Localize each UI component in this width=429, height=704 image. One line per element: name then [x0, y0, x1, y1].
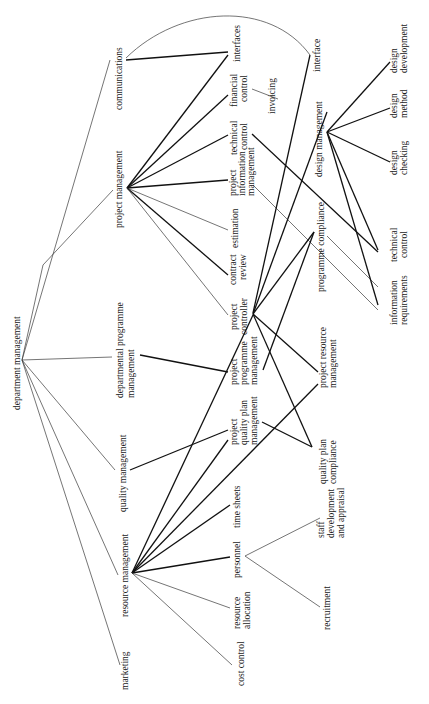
edge-pm-interfaces [127, 55, 228, 188]
edge-pm-controller [127, 188, 228, 315]
edge-pm-contract [127, 188, 228, 275]
node-programme-compliance: programme compliance [316, 202, 326, 292]
node-technical-control-pm-1: technical [229, 120, 239, 155]
node-design-checking-1: design [389, 150, 399, 175]
edge-comm-interface-arc [126, 16, 310, 58]
node-design-development-2: development [399, 24, 409, 73]
node-staff-development-2: development [326, 489, 336, 538]
node-contract-review-2: review [238, 254, 248, 280]
node-ppm-2: programme [239, 341, 249, 385]
node-resource-management: resource management [120, 534, 130, 617]
edge-dept-pm2 [43, 190, 113, 265]
node-design-management: design management [314, 101, 324, 177]
node-department-management: department management [12, 316, 22, 410]
edge-rm-allocation [132, 573, 230, 608]
edge-dept-marketing [22, 360, 120, 665]
node-information-requirements-1: information [389, 280, 399, 325]
node-technical-control-dm-2: control [399, 231, 409, 258]
node-estimation: estimation [230, 208, 240, 248]
edge-rm-pqpm [132, 440, 228, 573]
edge-pqpm-qpc [262, 422, 312, 447]
edge-rm-costcontrol [132, 573, 232, 665]
node-technical-control-dm-1: technical [389, 227, 399, 262]
edge-rm-prm [132, 384, 318, 573]
edge-dept-resource [22, 360, 118, 575]
node-resource-allocation-1: resource [232, 597, 242, 629]
node-departmental-programme-management-2: management [126, 349, 136, 398]
node-resource-allocation-2: allocation [242, 591, 252, 629]
organisation-diagram: department management communications pro… [0, 0, 429, 704]
node-design-method-1: design [389, 93, 399, 118]
node-pqpm-1: project [229, 418, 239, 445]
edge-pm-pim [127, 180, 228, 188]
node-pqpm-2: quality plan [239, 400, 249, 445]
edge-dept-communications [22, 60, 110, 360]
edge-qm-pqpm [130, 430, 228, 470]
edge-dm-inforeq [327, 132, 378, 305]
node-pqpm-3: management [249, 396, 259, 445]
edge-comm-interfaces [126, 52, 228, 60]
edge-dept-pm [22, 265, 43, 360]
node-design-development-1: design [389, 48, 399, 73]
node-ppm-1: project [229, 358, 239, 385]
node-interface: interface [312, 39, 322, 72]
node-financial-control-1: financial [229, 73, 239, 107]
node-invoicing: invoicing [267, 78, 277, 114]
node-recruitment: recruitment [322, 586, 332, 630]
node-communications: communications [114, 47, 124, 110]
edge-controller-prm [253, 314, 318, 372]
node-pim-3: management [246, 147, 256, 196]
node-time-sheets: time sheets [232, 485, 242, 528]
edge-rm-timesheets [132, 505, 230, 573]
node-prm-1: project resource [318, 327, 328, 388]
node-personnel: personnel [232, 541, 242, 578]
edge-controller-qpc [253, 314, 312, 447]
edge-dm-method [327, 108, 390, 132]
edge-dept-quality [22, 360, 115, 470]
edge-pm-estimation [127, 188, 228, 230]
node-ppm-3: management [249, 336, 259, 385]
node-project-management: project management [114, 150, 124, 228]
node-design-checking-2: checking [399, 140, 409, 175]
edge-personnel-recruitment [245, 556, 320, 607]
edge-dm-checking [327, 132, 390, 162]
edge-dm-technical [327, 132, 378, 250]
edge-ppm-progcomp [263, 232, 314, 370]
node-project-controller-1: project [229, 303, 239, 330]
edge-interface-controller [253, 55, 310, 313]
edge-rm-personnel [132, 557, 230, 573]
node-information-requirements-2: requirements [399, 275, 409, 325]
node-prm-2: management [328, 339, 338, 388]
node-technical-control-pm-2: control [239, 123, 249, 150]
node-contract-review-1: contract [228, 254, 238, 285]
node-staff-development-3: and appraisal [336, 487, 346, 538]
node-project-controller-2: controller [239, 297, 249, 335]
edge-deptprog-ppm [140, 355, 228, 372]
node-interfaces: interfaces [232, 25, 242, 62]
edge-personnel-staffdev [245, 518, 320, 556]
edge-pm-technical [127, 135, 228, 188]
node-design-method-2: method [399, 89, 409, 118]
node-quality-management: quality management [118, 434, 128, 512]
edge-dept-deptprog [22, 357, 112, 360]
node-staff-development-1: staff [316, 520, 326, 538]
edge-dm-development [327, 62, 390, 132]
node-qpc-2: compliance [328, 440, 338, 484]
node-cost-control: cost control [236, 641, 246, 686]
node-departmental-programme-management-1: departmental programme [115, 302, 125, 398]
node-qpc-1: quality plan [318, 439, 328, 484]
node-financial-control-2: control [239, 75, 249, 102]
edge-pm-financial [127, 95, 228, 188]
node-marketing: marketing [120, 651, 130, 690]
